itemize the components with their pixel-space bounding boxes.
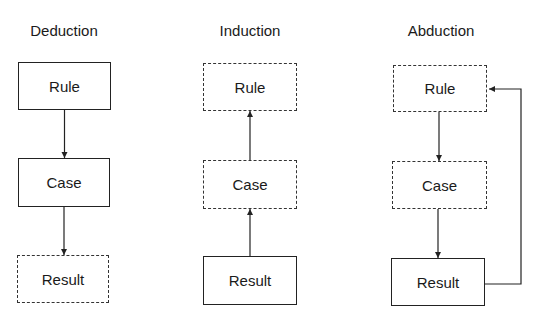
- edges-layer: [0, 0, 536, 327]
- abduction-result-to-rule-loop-arrow: [485, 89, 521, 284]
